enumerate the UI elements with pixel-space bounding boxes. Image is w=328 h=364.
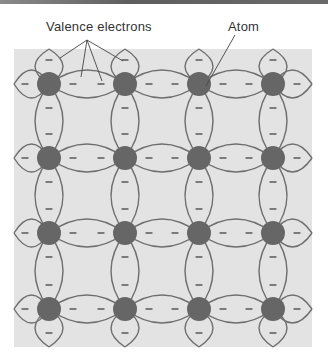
atom-icon [37, 221, 61, 245]
crystal-lattice-diagram [0, 0, 328, 364]
valence-electrons-label: Valence electrons [46, 19, 152, 34]
atom-icon [113, 297, 137, 321]
atom-icon [187, 221, 211, 245]
atom-icon [113, 72, 137, 96]
atom-icon [37, 146, 61, 170]
atom-label: Atom [228, 19, 259, 34]
atom-icon [261, 146, 285, 170]
atom-icon [113, 221, 137, 245]
atom-icon [261, 72, 285, 96]
atom-icon [261, 221, 285, 245]
atom-icon [113, 146, 137, 170]
atom-icon [187, 146, 211, 170]
atom-icon [187, 297, 211, 321]
atom-icon [261, 297, 285, 321]
atom-icon [37, 297, 61, 321]
atom-icon [37, 72, 61, 96]
